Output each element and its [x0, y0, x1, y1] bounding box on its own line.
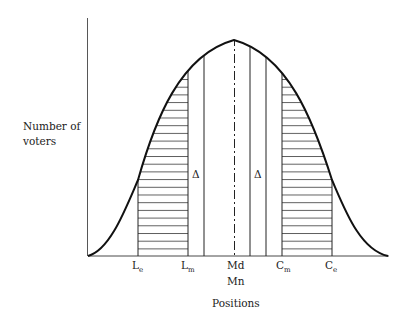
tick-label-Cm: C m: [276, 259, 291, 274]
svg-text:e: e: [333, 266, 337, 274]
delta-left: Δ: [192, 168, 200, 180]
delta-right: Δ: [254, 168, 262, 180]
x-axis-label: Positions: [212, 297, 260, 309]
tick-label-Md: Md: [227, 259, 245, 271]
tick-label-Lm: L m: [181, 259, 195, 274]
svg-text:e: e: [139, 266, 143, 274]
tick-label-Mn: Mn: [227, 275, 245, 287]
hatch-right: [282, 30, 332, 256]
hatch-left: [138, 30, 188, 256]
tick-label-Ce: C e: [325, 259, 337, 274]
tick-label-Le: L e: [132, 259, 143, 274]
y-axis-label-line2: voters: [22, 135, 56, 147]
svg-text:m: m: [284, 266, 291, 274]
voter-distribution-diagram: Δ Δ Number of voters L e L m Md Mn C m C…: [0, 0, 409, 323]
svg-text:C: C: [276, 259, 284, 271]
distribution-curve: [88, 40, 388, 256]
y-axis-label-line1: Number of: [23, 120, 82, 132]
svg-text:L: L: [181, 259, 188, 271]
svg-text:m: m: [188, 266, 195, 274]
svg-text:C: C: [325, 259, 333, 271]
svg-text:L: L: [132, 259, 139, 271]
